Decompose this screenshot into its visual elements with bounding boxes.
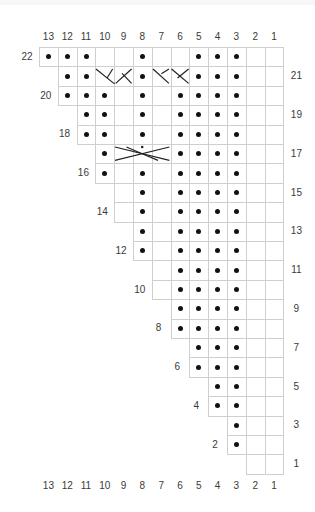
- row-label: 8: [149, 322, 169, 334]
- purl-dot-icon: [196, 268, 201, 273]
- chart-cell: [246, 183, 266, 203]
- chart-cell: [246, 86, 266, 106]
- column-label-top: 2: [245, 31, 265, 43]
- chart-cell: [246, 105, 266, 125]
- chart-cell: [265, 319, 285, 339]
- column-label-bottom: 6: [170, 480, 190, 492]
- purl-dot-icon: [234, 287, 239, 292]
- purl-dot-icon: [215, 268, 220, 273]
- chart-cell: [152, 280, 172, 300]
- chart-cell: [114, 163, 134, 183]
- column-label-top: 9: [114, 31, 134, 43]
- row-label: 6: [167, 361, 187, 373]
- chart-cell: [152, 183, 172, 203]
- row-label: 11: [286, 264, 306, 276]
- column-label-top: 3: [226, 31, 246, 43]
- chart-cell: [265, 47, 285, 67]
- chart-cell: [152, 125, 172, 145]
- chart-cell: [265, 435, 285, 455]
- chart-cell: [265, 183, 285, 203]
- column-label-top: 6: [170, 31, 190, 43]
- chart-cell: [114, 86, 134, 106]
- chart-cell: [246, 163, 266, 183]
- chart-cell: [246, 435, 266, 455]
- chart-cell: [265, 377, 285, 397]
- purl-dot-icon: [215, 365, 220, 370]
- chart-cell: [265, 125, 285, 145]
- purl-dot-icon: [178, 209, 183, 214]
- chart-cell: [152, 241, 172, 261]
- column-label-bottom: 7: [151, 480, 171, 492]
- cable-cross-icon: [152, 66, 190, 85]
- chart-cell: [265, 105, 285, 125]
- row-label: 5: [286, 381, 306, 393]
- row-label: 4: [186, 400, 206, 412]
- chart-cell: [246, 377, 266, 397]
- purl-dot-icon: [65, 74, 70, 79]
- row-label: 9: [286, 303, 306, 315]
- chart-cell: [246, 144, 266, 164]
- purl-dot-icon: [84, 74, 89, 79]
- purl-dot-icon: [65, 93, 70, 98]
- chart-cell: [265, 396, 285, 416]
- purl-dot-icon: [234, 423, 239, 428]
- purl-dot-icon: [196, 365, 201, 370]
- purl-dot-icon: [178, 112, 183, 117]
- chart-cell: [114, 105, 134, 125]
- purl-dot-icon: [178, 248, 183, 253]
- column-label-top: 10: [95, 31, 115, 43]
- row-label: 2: [205, 439, 225, 451]
- chart-cell: [152, 105, 172, 125]
- column-label-top: 1: [264, 31, 284, 43]
- chart-cell: [246, 357, 266, 377]
- purl-dot-icon: [140, 93, 145, 98]
- chart-cell: [246, 299, 266, 319]
- purl-dot-icon: [215, 229, 220, 234]
- chart-cell: [152, 163, 172, 183]
- purl-dot-icon: [234, 190, 239, 195]
- purl-dot-icon: [234, 326, 239, 331]
- column-label-bottom: 3: [226, 480, 246, 492]
- row-label: 14: [92, 206, 112, 218]
- chart-cell: [246, 241, 266, 261]
- column-label-bottom: 1: [264, 480, 284, 492]
- purl-dot-icon: [215, 326, 220, 331]
- column-label-bottom: 10: [95, 480, 115, 492]
- chart-cell: [95, 47, 115, 67]
- chart-cell: [246, 66, 266, 86]
- purl-dot-icon: [178, 190, 183, 195]
- purl-dot-icon: [178, 151, 183, 156]
- row-label: 17: [286, 148, 306, 160]
- chart-cell: [265, 66, 285, 86]
- chart-cell: [246, 280, 266, 300]
- chart-cell: [265, 454, 285, 474]
- purl-dot-icon: [102, 171, 107, 176]
- row-label: 18: [55, 128, 75, 140]
- purl-dot-icon: [178, 171, 183, 176]
- purl-dot-icon: [178, 287, 183, 292]
- chart-cell: [246, 396, 266, 416]
- column-label-bottom: 11: [76, 480, 96, 492]
- purl-dot-icon: [234, 132, 239, 137]
- purl-dot-icon: [140, 74, 145, 79]
- row-label: 15: [286, 187, 306, 199]
- purl-dot-icon: [234, 74, 239, 79]
- row-label: 7: [286, 342, 306, 354]
- chart-cell: [152, 86, 172, 106]
- purl-dot-icon: [65, 54, 70, 59]
- chart-cell: [114, 202, 134, 222]
- purl-dot-icon: [234, 365, 239, 370]
- purl-dot-icon: [178, 132, 183, 137]
- purl-dot-icon: [140, 171, 145, 176]
- chart-cell: [265, 280, 285, 300]
- row-label: 19: [286, 109, 306, 121]
- purl-dot-icon: [140, 132, 145, 137]
- chart-cell: [265, 86, 285, 106]
- purl-dot-icon: [234, 229, 239, 234]
- chart-cell: [265, 260, 285, 280]
- knitting-chart: 1313121211111010998877665544332211222120…: [0, 0, 315, 512]
- row-label: 3: [286, 419, 306, 431]
- purl-dot-icon: [178, 326, 183, 331]
- purl-dot-icon: [178, 306, 183, 311]
- chart-cell: [246, 416, 266, 436]
